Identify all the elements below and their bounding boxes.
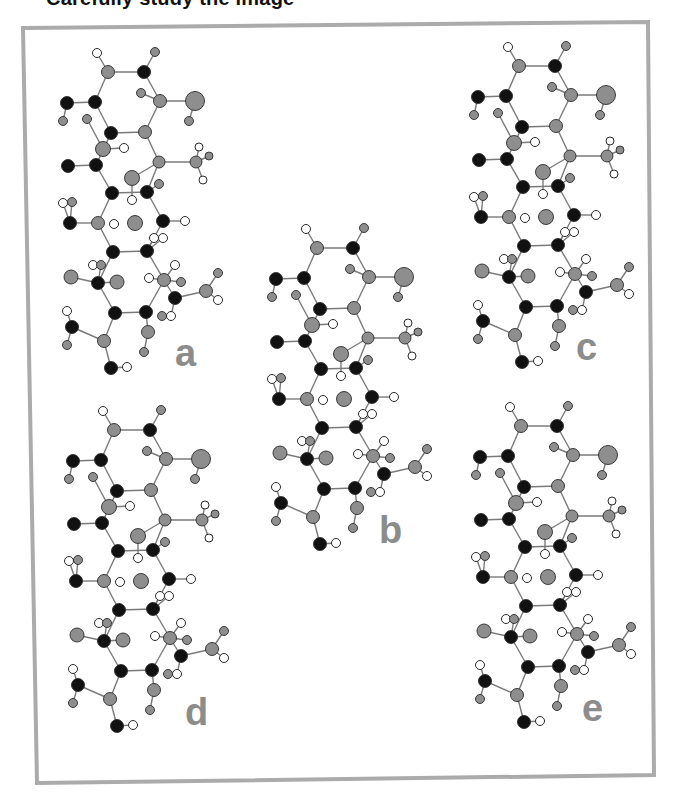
black-atom [115, 665, 128, 678]
black-atom [554, 599, 567, 612]
gray-atom [475, 264, 489, 278]
hydrogen-atom [408, 352, 416, 360]
black-atom [553, 660, 566, 673]
hydrogen-atom [476, 661, 485, 670]
gray-atom [386, 454, 395, 463]
gray-atom [367, 488, 376, 497]
gray-atom [214, 269, 223, 278]
gray-atom [164, 670, 173, 679]
black-atom [568, 209, 581, 222]
hydrogen-atom [59, 199, 68, 208]
black-atom [477, 315, 490, 328]
atoms [470, 42, 634, 369]
hydrogen-atom [606, 137, 614, 145]
gray-atom [142, 326, 155, 339]
gray-atom [472, 471, 481, 480]
hydrogen-atom [610, 170, 618, 178]
gray-atom [511, 689, 524, 702]
black-atom [475, 514, 488, 527]
hydrogen-atom [268, 375, 277, 384]
hydrogen-atom [201, 501, 209, 509]
hydrogen-atom [534, 357, 543, 366]
gray-atom [569, 268, 582, 281]
hydrogen-atom [354, 450, 363, 459]
gray-atom [599, 446, 618, 465]
gray-atom [143, 447, 152, 456]
hydrogen-atom [531, 138, 540, 147]
gray-atom [103, 619, 112, 628]
gray-atom [116, 633, 130, 647]
hydrogen-atom [128, 196, 137, 205]
black-atom [549, 60, 562, 73]
black-atom [472, 91, 485, 104]
gray-atom [348, 302, 361, 315]
hydrogen-atom [145, 274, 154, 283]
gray-atom [470, 111, 479, 120]
hydrogen-atom [578, 306, 587, 315]
black-atom [95, 454, 108, 467]
hydrogen-atom [123, 363, 132, 372]
black-atom [169, 292, 182, 305]
black-atom [518, 716, 531, 729]
structure-c [470, 42, 634, 369]
hydrogen-atom [214, 296, 223, 305]
gray-atom [65, 475, 74, 484]
structure-e [472, 402, 636, 729]
gray-atom [423, 445, 432, 454]
black-atom [175, 650, 188, 663]
hydrogen-atom [302, 225, 311, 234]
hydrogen-atom [134, 554, 143, 563]
gray-atom [564, 402, 573, 411]
gray-atom [190, 156, 202, 168]
black-atom [522, 661, 535, 674]
hydrogen-atom [608, 497, 616, 505]
black-atom [141, 186, 154, 199]
black-atom [270, 273, 283, 286]
black-atom [582, 646, 595, 659]
gray-atom [494, 109, 503, 118]
hydrogen-atom [120, 144, 129, 153]
gray-atom [552, 480, 565, 493]
structure-label-a: a [175, 332, 197, 374]
gray-atom [508, 255, 517, 264]
gray-atom [177, 278, 186, 287]
hydrogen-atom [506, 403, 515, 412]
structure-label-c: c [576, 326, 597, 368]
gray-atom [521, 269, 535, 283]
black-atom [378, 468, 391, 481]
gray-atom [360, 224, 369, 233]
black-atom [106, 187, 119, 200]
gray-atom [507, 136, 522, 151]
hydrogen-atom [563, 588, 572, 597]
gray-atom [268, 293, 277, 302]
structure-b [268, 224, 432, 551]
hydrogen-atom [93, 49, 102, 58]
structures-layer: abcde [59, 42, 636, 734]
black-atom [107, 246, 120, 259]
gray-atom [161, 538, 170, 547]
gray-atom [277, 374, 286, 383]
gray-atom [153, 156, 165, 168]
black-atom [109, 307, 122, 320]
black-atom [520, 301, 533, 314]
gray-atom [205, 152, 213, 160]
gray-atom [553, 702, 562, 711]
gray-atom [539, 210, 554, 225]
gray-atom [362, 332, 374, 344]
black-atom [141, 245, 154, 258]
gray-atom [569, 306, 578, 315]
black-atom [316, 422, 329, 435]
hydrogen-atom [474, 301, 483, 310]
gray-atom [479, 192, 488, 201]
gray-atom [137, 89, 146, 98]
black-atom [473, 154, 486, 167]
hydrogen-atom [329, 320, 338, 329]
gray-atom [160, 453, 173, 466]
hydrogen-atom [69, 665, 78, 674]
gray-atom [474, 335, 483, 344]
gray-atom [110, 275, 124, 289]
hydrogen-atom [337, 372, 346, 381]
gray-atom [104, 693, 117, 706]
gray-atom [550, 443, 559, 452]
black-atom [580, 286, 593, 299]
